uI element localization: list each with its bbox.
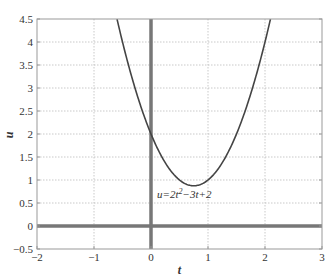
y-tick-label: 3 (28, 82, 34, 94)
anno-main: u=2t (157, 188, 179, 200)
y-tick-label: 2.5 (19, 105, 33, 117)
parabola-curve (117, 19, 270, 186)
y-tick-label: 1 (28, 174, 34, 186)
x-tick-label: −1 (88, 251, 100, 263)
x-tick-label: 2 (262, 251, 268, 263)
y-tick-label: 2 (28, 128, 34, 140)
x-axis-label: t (178, 263, 182, 277)
x-tick-label: 1 (205, 251, 211, 263)
anno-rest: −3t+2 (182, 188, 211, 200)
y-tick-label: −0.5 (13, 243, 33, 255)
grid-lines (37, 19, 322, 249)
x-tick-label: 0 (148, 251, 154, 263)
data-series (117, 19, 270, 186)
y-tick-label: 4.5 (19, 13, 33, 25)
y-tick-label: 0.5 (19, 197, 33, 209)
y-tick-label: 4 (28, 36, 34, 48)
x-tick-label: 3 (319, 251, 325, 263)
y-tick-label: 0 (28, 220, 34, 232)
chart: −2−10123−0.500.511.522.533.544.5 t u u=2… (0, 0, 331, 279)
equation-annotation: u=2t2−3t+2 (157, 187, 212, 200)
y-tick-label: 1.5 (19, 151, 33, 163)
y-tick-label: 3.5 (19, 59, 33, 71)
y-axis-label: u (2, 131, 16, 138)
